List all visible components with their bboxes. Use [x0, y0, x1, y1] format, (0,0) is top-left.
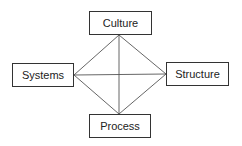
node-systems: Systems: [12, 63, 74, 87]
node-culture: Culture: [89, 11, 152, 35]
node-structure: Structure: [166, 62, 229, 86]
edge-systems-structure: [74, 74, 166, 75]
edge-systems-process: [74, 75, 119, 114]
edge-culture-systems: [74, 35, 119, 75]
node-label: Systems: [22, 69, 64, 81]
edge-culture-structure: [119, 35, 166, 74]
node-label: Culture: [103, 17, 138, 29]
node-process: Process: [89, 114, 151, 138]
node-label: Process: [100, 120, 140, 132]
edge-structure-process: [119, 74, 166, 114]
node-label: Structure: [175, 68, 220, 80]
